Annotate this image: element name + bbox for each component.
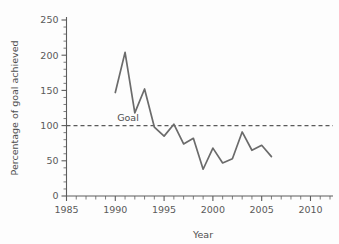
x-axis-ticks [67, 196, 331, 201]
x-tick-label: 2000 [201, 204, 225, 215]
y-tick-label: 100 [40, 120, 58, 131]
y-axis-ticks [62, 20, 67, 196]
x-tick-label: 2010 [298, 204, 322, 215]
x-tick-label: 1985 [54, 204, 78, 215]
x-tick-label: 1990 [103, 204, 127, 215]
y-tick-label: 150 [40, 85, 58, 96]
x-axis-title: Year [192, 229, 213, 240]
y-tick-label: 50 [46, 155, 58, 166]
y-tick-label: 200 [40, 50, 58, 61]
y-tick-label: 0 [52, 190, 58, 201]
x-tick-label: 2005 [250, 204, 274, 215]
x-axis-tick-labels: 198519901995200020052010 [54, 204, 322, 215]
y-axis-tick-labels: 050100150200250 [40, 14, 58, 201]
y-axis-title: Percentage of goal achieved [9, 40, 20, 175]
y-tick-label: 250 [40, 14, 58, 25]
chart-container: Goal 050100150200250 1985199019952000200… [0, 0, 339, 244]
line-chart: Goal 050100150200250 1985199019952000200… [0, 0, 339, 244]
x-tick-label: 1995 [152, 204, 176, 215]
